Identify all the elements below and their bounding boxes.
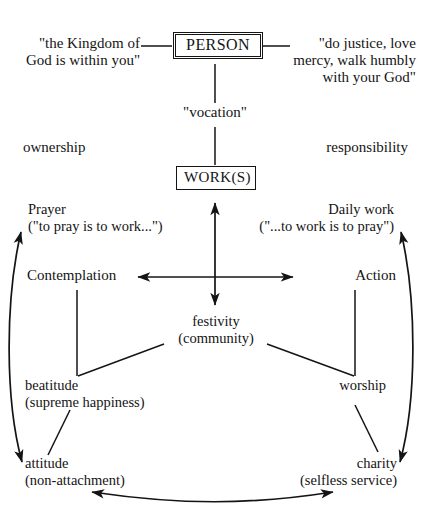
node-vocation: "vocation" — [165, 104, 265, 121]
action-label: Action — [355, 267, 396, 283]
ownership-label: ownership — [23, 139, 86, 155]
prayer-line2: ("to pray is to work...") — [28, 218, 163, 234]
edge-dailywork-charity-arc — [400, 232, 413, 462]
edge-attitude-charity-arc — [92, 492, 333, 502]
beatitude-line2: (supreme happiness) — [25, 394, 145, 410]
attitude-line2: (non-attachment) — [25, 472, 125, 488]
edge-worship-to-charity — [355, 405, 378, 452]
edge-beatitude-to-attitude — [48, 410, 70, 455]
worship-label: worship — [339, 377, 386, 393]
node-action: Action — [300, 267, 396, 284]
kingdom-quote-line2: God is within you" — [26, 52, 140, 68]
festivity-line1: festivity — [192, 313, 240, 329]
daily-work-line1: Daily work — [328, 201, 394, 217]
edge-prayer-attitude-arc — [9, 232, 22, 462]
charity-line1: charity — [357, 455, 397, 471]
node-contemplation: Contemplation — [27, 267, 116, 284]
prayer-line1: Prayer — [28, 201, 66, 217]
node-justice-quote: "do justice, lovemercy, walk humblywith … — [272, 35, 416, 86]
node-worship: worship — [290, 377, 386, 394]
node-works: WORK(S) — [176, 166, 256, 190]
node-kingdom-quote: "the Kingdom ofGod is within you" — [8, 35, 140, 69]
node-ownership: ownership — [23, 139, 86, 156]
justice-quote-line3: with your God" — [322, 69, 416, 85]
node-prayer: Prayer("to pray is to work...") — [28, 201, 163, 234]
justice-quote-line1: "do justice, love — [319, 35, 416, 51]
festivity-line2: (community) — [178, 330, 254, 346]
edge-festivity-to-worship — [267, 344, 354, 376]
beatitude-line1: beatitude — [25, 377, 78, 393]
node-person: PERSON — [173, 32, 263, 59]
daily-work-line2: ("...to work is to pray") — [259, 218, 394, 234]
node-beatitude: beatitude(supreme happiness) — [25, 377, 145, 410]
attitude-line1: attitude — [25, 455, 69, 471]
concept-diagram: PERSON "the Kingdom ofGod is within you"… — [0, 0, 422, 524]
justice-quote-line2: mercy, walk humbly — [293, 52, 416, 68]
charity-line2: (selfless service) — [300, 472, 397, 488]
kingdom-quote-line1: "the Kingdom of — [39, 35, 140, 51]
contemplation-label: Contemplation — [27, 267, 116, 283]
responsibility-label: responsibility — [326, 139, 408, 155]
node-daily-work: Daily work("...to work is to pray") — [226, 201, 394, 234]
vocation-label: "vocation" — [183, 104, 247, 120]
node-charity: charity(selfless service) — [249, 455, 397, 488]
node-responsibility: responsibility — [250, 139, 408, 156]
edge-festivity-to-beatitude — [78, 344, 164, 376]
node-works-label: WORK(S) — [184, 169, 248, 186]
node-attitude: attitude(non-attachment) — [25, 455, 125, 488]
node-person-label: PERSON — [184, 36, 252, 54]
node-festivity: festivity(community) — [161, 313, 271, 346]
